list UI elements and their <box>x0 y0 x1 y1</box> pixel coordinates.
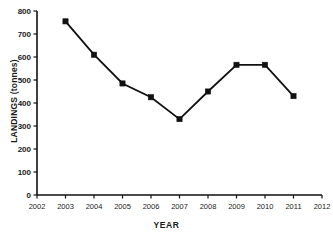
y-tick-label: 400 <box>18 99 32 108</box>
x-axis-title: YEAR <box>0 220 333 230</box>
data-point-marker <box>91 52 96 57</box>
x-tick-label: 2007 <box>171 202 188 211</box>
x-tick-label: 2002 <box>29 202 46 211</box>
series-line-landings <box>66 21 294 119</box>
x-tick-label: 2010 <box>257 202 274 211</box>
x-tick-label: 2005 <box>114 202 131 211</box>
x-tick-label: 2008 <box>200 202 217 211</box>
x-tick-label: 2009 <box>228 202 245 211</box>
data-point-marker <box>148 95 153 100</box>
line-chart: LANDINGS (tonnes) 0100200300400500600700… <box>0 0 333 235</box>
y-tick-label: 300 <box>18 122 32 131</box>
y-tick-label: 600 <box>18 53 32 62</box>
x-tick-label: 2011 <box>285 202 301 211</box>
x-tick-label: 2006 <box>143 202 160 211</box>
y-tick-label: 500 <box>18 76 32 85</box>
data-point-marker <box>262 62 267 67</box>
y-axis-ticks: 0100200300400500600700800 <box>18 7 37 200</box>
y-tick-label: 100 <box>18 168 32 177</box>
y-tick-label: 800 <box>18 7 32 16</box>
data-point-marker <box>177 117 182 122</box>
data-point-marker <box>291 94 296 99</box>
series-markers-landings <box>63 19 296 122</box>
data-point-marker <box>120 81 125 86</box>
x-axis-ticks: 2002200320042005200620072008200920102011… <box>29 195 331 211</box>
plot-area: 0100200300400500600700800 20022003200420… <box>0 0 333 235</box>
x-tick-label: 2012 <box>314 202 331 211</box>
y-tick-label: 200 <box>18 145 32 154</box>
data-point-marker <box>63 19 68 24</box>
data-point-marker <box>205 89 210 94</box>
x-tick-label: 2004 <box>86 202 103 211</box>
x-tick-label: 2003 <box>57 202 74 211</box>
y-tick-label: 700 <box>18 30 32 39</box>
y-tick-label: 0 <box>27 191 32 200</box>
data-point-marker <box>234 62 239 67</box>
